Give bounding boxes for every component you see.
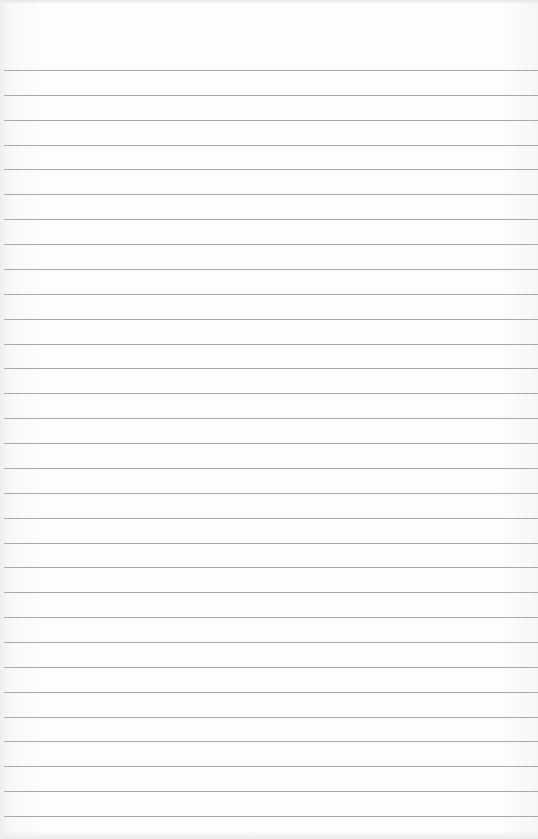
ruled-line (4, 816, 538, 817)
ruled-line (4, 344, 538, 345)
lined-paper (0, 0, 538, 839)
ruled-line (4, 70, 538, 71)
ruled-line (4, 567, 538, 568)
ruled-line (4, 493, 538, 494)
ruled-line (4, 592, 538, 593)
ruled-line (4, 219, 538, 220)
ruled-line (4, 617, 538, 618)
ruled-line (4, 642, 538, 643)
ruled-line (4, 244, 538, 245)
paper-bottom-edge (0, 831, 538, 839)
ruled-line (4, 418, 538, 419)
ruled-line (4, 741, 538, 742)
ruled-line (4, 443, 538, 444)
ruled-line (4, 145, 538, 146)
ruled-line (4, 393, 538, 394)
ruled-line (4, 169, 538, 170)
ruled-line (4, 194, 538, 195)
ruled-line (4, 468, 538, 469)
ruled-line (4, 95, 538, 96)
ruled-line (4, 319, 538, 320)
ruled-line (4, 717, 538, 718)
ruled-line (4, 269, 538, 270)
ruled-line (4, 543, 538, 544)
ruled-line (4, 667, 538, 668)
ruled-line (4, 368, 538, 369)
paper-top-edge (0, 0, 538, 4)
ruled-line (4, 766, 538, 767)
ruled-line (4, 692, 538, 693)
ruled-line (4, 518, 538, 519)
ruled-line (4, 791, 538, 792)
ruled-line (4, 294, 538, 295)
ruled-line (4, 120, 538, 121)
